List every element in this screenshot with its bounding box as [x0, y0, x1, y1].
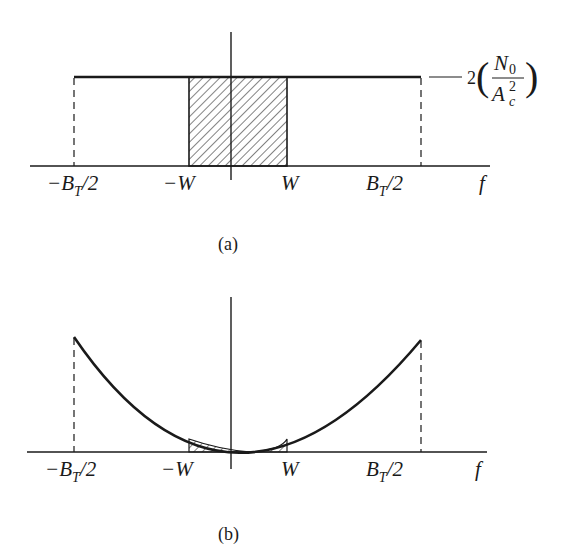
svg-text:−BT/2: −BT/2 [47, 171, 99, 199]
tick-label-neg-bt2-b: −BT/2 [45, 457, 97, 485]
tick-label-neg-w-a: −W [163, 171, 197, 195]
axis-label-f-b: f [475, 457, 484, 481]
svg-text:0: 0 [509, 62, 516, 77]
level-label-a: 2 ( N 0 A 2 c ) [467, 51, 538, 109]
tick-label-neg-w-b: −W [161, 457, 195, 481]
tick-label-neg-bt2-a: −BT/2 [47, 171, 99, 199]
svg-text:BT/2: BT/2 [366, 457, 403, 485]
tick-label-w-b: W [281, 457, 301, 481]
figure-canvas: 2 ( N 0 A 2 c ) −BT/2 −W W BT/2 f (a) − [0, 0, 566, 546]
panel-a: 2 ( N 0 A 2 c ) −BT/2 −W W BT/2 f (a) [30, 32, 538, 255]
tick-label-w-a: W [281, 171, 301, 195]
panel-b: −BT/2 −W W BT/2 f (b) [27, 297, 487, 545]
paren-close: ) [525, 54, 538, 99]
shaded-band-a [189, 77, 287, 166]
svg-text:2: 2 [467, 68, 476, 88]
svg-text:BT/2: BT/2 [366, 171, 403, 199]
svg-text:−BT/2: −BT/2 [45, 457, 97, 485]
paren-open: ( [476, 54, 489, 99]
tick-label-bt2-b: BT/2 [366, 457, 403, 485]
svg-text:c: c [509, 94, 516, 109]
svg-text:2: 2 [509, 79, 516, 94]
caption-a: (a) [218, 234, 238, 255]
svg-text:A: A [490, 82, 505, 106]
svg-text:N: N [493, 51, 509, 75]
psd-parabola-b [74, 337, 421, 453]
tick-label-bt2-a: BT/2 [366, 171, 403, 199]
caption-b: (b) [218, 524, 239, 545]
axis-label-f-a: f [479, 171, 488, 195]
